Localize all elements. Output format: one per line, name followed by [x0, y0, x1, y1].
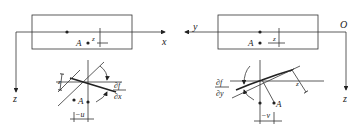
right-detail-centroid-dot [258, 101, 261, 104]
right-disp-label: −v [261, 111, 270, 120]
right-slope-num: ∂f [216, 78, 224, 87]
left-angle-arc-top [100, 66, 107, 80]
left-slope-den: ∂x [114, 92, 122, 101]
right-panel: y O z A z A z ∂f ∂y −v [185, 15, 347, 124]
right-slope-den: ∂y [216, 89, 224, 98]
left-detail-a-dot [72, 98, 75, 101]
right-centroid-dot [258, 30, 261, 33]
left-detail-a-label: A [77, 96, 84, 106]
diagram-canvas: x z A z A z ∂f ∂x −u y O z A [0, 0, 362, 136]
right-point-a-label: A [247, 38, 254, 48]
left-x-label: x [161, 36, 167, 47]
left-offset-label: z [91, 35, 95, 43]
left-disp-label: −u [75, 110, 84, 119]
right-point-a-dot [258, 41, 261, 44]
left-tangent-line [70, 78, 116, 92]
right-offset-label: z [272, 35, 276, 43]
left-centroid-dot [65, 30, 68, 33]
right-origin-label: O [340, 19, 347, 30]
right-detail-a-label: A [275, 99, 282, 109]
left-point-a-label: A [75, 38, 82, 48]
right-tangent-line [232, 66, 300, 98]
left-panel: x z A z A z ∂f ∂x −u [12, 15, 167, 122]
right-normal-line [262, 80, 274, 102]
right-dist-label: z [295, 80, 299, 88]
left-z-label: z [12, 93, 17, 104]
left-detail-centroid-dot [86, 100, 89, 103]
left-dist-label: z [57, 78, 61, 86]
left-point-a-dot [86, 41, 89, 44]
right-y-label: y [192, 21, 198, 32]
left-angle-arc-bottom [96, 92, 107, 102]
right-z-label: z [342, 93, 347, 104]
